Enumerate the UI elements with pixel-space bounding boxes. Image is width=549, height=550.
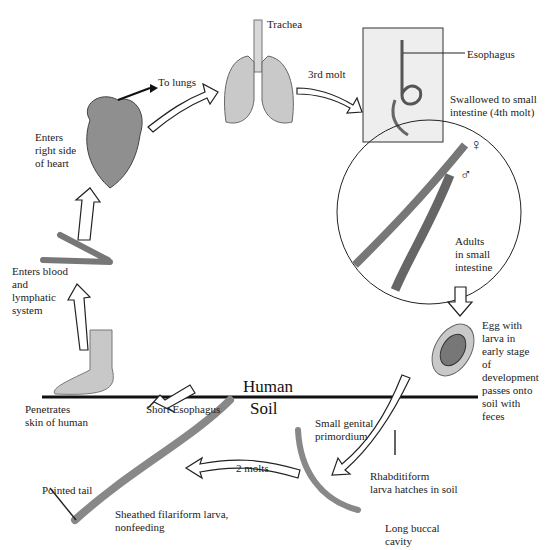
life-cycle-artwork — [0, 0, 549, 550]
label-two-molts: 2 molts — [236, 462, 269, 475]
zone-label-human: Human — [243, 378, 293, 396]
label-esophagus: Esophagus — [467, 48, 515, 61]
label-rhabditiform: Rhabditiform larva hatches in soil — [370, 470, 458, 496]
label-short-esophagus: Short Esophagus — [146, 403, 220, 416]
zone-label-soil: Soil — [250, 400, 277, 418]
heart-icon — [87, 84, 158, 188]
label-adults: Adults in small intestine — [455, 235, 492, 274]
torso-esophagus-panel — [363, 28, 465, 142]
blood-vessel-icon — [43, 235, 110, 262]
label-filariform: Sheathed filariform larva, nonfeeding — [115, 508, 228, 534]
lungs-icon — [225, 20, 294, 123]
female-symbol-icon: ♀ — [470, 138, 482, 151]
male-symbol-icon: ♂ — [460, 168, 472, 181]
label-blood: Enters blood and lymphatic system — [12, 265, 68, 317]
label-third-molt: 3rd molt — [308, 68, 346, 81]
label-to-lungs: To lungs — [158, 76, 196, 89]
label-swallowed: Swallowed to small intestine (4th molt) — [450, 93, 537, 119]
intestine-adults-circle — [337, 120, 521, 304]
label-heart: Enters right side of heart — [35, 131, 76, 170]
label-egg: Egg with larva in early stage of develop… — [482, 319, 539, 423]
label-penetrates: Penetrates skin of human — [25, 403, 88, 429]
label-pointed-tail: Pointed tail — [42, 484, 92, 497]
label-buccal: Long buccal cavity — [385, 522, 440, 548]
label-genital-primordium: Small genital primordium — [315, 417, 373, 443]
filariform-larva-icon — [75, 400, 230, 520]
label-trachea: Trachea — [267, 18, 302, 31]
